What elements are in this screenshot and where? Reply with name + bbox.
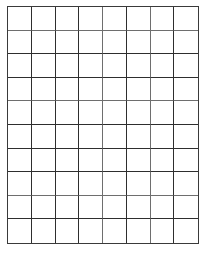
grid-cell <box>32 125 56 149</box>
grid-cell <box>127 54 151 78</box>
grid-cell <box>151 7 175 31</box>
grid-cell <box>56 172 80 196</box>
grid-cell <box>79 101 103 125</box>
grid-cell <box>56 54 80 78</box>
grid-cell <box>56 31 80 55</box>
grid-cell <box>32 7 56 31</box>
grid-cell <box>56 149 80 173</box>
grid-cell <box>127 196 151 220</box>
grid-cell <box>103 101 127 125</box>
grid-cell <box>151 31 175 55</box>
grid-cell <box>103 54 127 78</box>
grid-cell <box>151 125 175 149</box>
grid-cell <box>79 149 103 173</box>
grid-cell <box>8 78 32 102</box>
grid-cell <box>79 78 103 102</box>
grid-cell <box>32 101 56 125</box>
grid-cell <box>8 172 32 196</box>
grid-cell <box>56 125 80 149</box>
grid-cell <box>79 54 103 78</box>
grid-cell <box>174 7 198 31</box>
grid-cell <box>151 101 175 125</box>
grid-cell <box>79 31 103 55</box>
grid-cell <box>79 172 103 196</box>
grid-cell <box>103 78 127 102</box>
grid-cell <box>151 149 175 173</box>
grid-cell <box>32 219 56 243</box>
grid-cell <box>127 31 151 55</box>
grid-cell <box>79 219 103 243</box>
grid-cell <box>56 7 80 31</box>
grid-cell <box>8 54 32 78</box>
empty-grid <box>7 6 199 244</box>
grid-cell <box>127 219 151 243</box>
grid-cell <box>32 172 56 196</box>
grid-cell <box>8 125 32 149</box>
grid-cell <box>32 54 56 78</box>
grid-cell <box>32 196 56 220</box>
grid-cell <box>103 125 127 149</box>
grid-cell <box>103 219 127 243</box>
grid-cell <box>127 78 151 102</box>
grid-cell <box>127 7 151 31</box>
grid-cell <box>127 125 151 149</box>
grid-cell <box>103 196 127 220</box>
grid-cell <box>174 149 198 173</box>
grid-cell <box>127 172 151 196</box>
grid-cell <box>174 219 198 243</box>
grid-cell <box>56 196 80 220</box>
grid-cell <box>174 125 198 149</box>
grid-cell <box>103 149 127 173</box>
grid-cell <box>151 196 175 220</box>
grid-cell <box>151 219 175 243</box>
grid-cell <box>127 101 151 125</box>
grid-cell <box>174 172 198 196</box>
grid-cell <box>174 101 198 125</box>
grid-cell <box>151 54 175 78</box>
grid-cell <box>8 31 32 55</box>
grid-cell <box>103 172 127 196</box>
grid-cell <box>174 31 198 55</box>
grid-cell <box>8 219 32 243</box>
grid-cell <box>32 149 56 173</box>
grid-cell <box>32 78 56 102</box>
grid-cell <box>79 7 103 31</box>
grid-cell <box>56 78 80 102</box>
grid-cell <box>103 31 127 55</box>
grid-cell <box>174 78 198 102</box>
grid-cell <box>174 54 198 78</box>
grid-cell <box>8 7 32 31</box>
grid-cell <box>32 31 56 55</box>
grid-cell <box>56 101 80 125</box>
grid-cell <box>8 149 32 173</box>
grid-cell <box>151 78 175 102</box>
grid-cell <box>8 196 32 220</box>
grid-cell <box>174 196 198 220</box>
grid-cell <box>103 7 127 31</box>
grid-cell <box>79 196 103 220</box>
grid-cell <box>8 101 32 125</box>
grid-cell <box>127 149 151 173</box>
grid-cell <box>151 172 175 196</box>
grid-cell <box>56 219 80 243</box>
grid-cell <box>79 125 103 149</box>
